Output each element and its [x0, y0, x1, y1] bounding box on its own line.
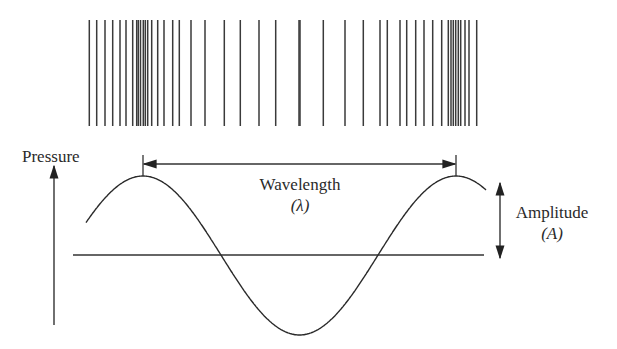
amplitude-label: Amplitude	[508, 204, 596, 221]
compression-rarefaction-bars	[89, 20, 476, 126]
amplitude-label-group: Amplitude (A)	[508, 204, 596, 242]
wavelength-symbol: (λ)	[245, 197, 355, 214]
wavelength-label: Wavelength	[245, 176, 355, 193]
pressure-axis-label: Pressure	[22, 148, 80, 165]
amplitude-symbol: (A)	[508, 225, 596, 242]
wavelength-label-group: Wavelength (λ)	[245, 176, 355, 214]
